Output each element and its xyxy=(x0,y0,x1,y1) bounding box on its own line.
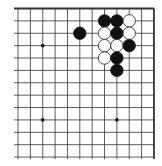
star-point xyxy=(115,118,119,122)
white-stone[interactable] xyxy=(98,52,110,64)
star-point xyxy=(41,44,45,48)
black-stone[interactable] xyxy=(111,52,123,64)
white-stone[interactable] xyxy=(123,15,135,27)
star-point xyxy=(41,118,45,122)
white-stone[interactable] xyxy=(123,27,135,39)
white-stone[interactable] xyxy=(98,27,110,39)
black-stone[interactable] xyxy=(111,64,123,76)
black-stone[interactable] xyxy=(98,15,110,27)
white-stone[interactable] xyxy=(98,39,110,51)
white-stone[interactable] xyxy=(111,39,123,51)
black-stone[interactable] xyxy=(123,39,135,51)
go-board xyxy=(0,0,162,166)
black-stone[interactable] xyxy=(111,27,123,39)
black-stone[interactable] xyxy=(74,27,86,39)
black-stone[interactable] xyxy=(111,15,123,27)
